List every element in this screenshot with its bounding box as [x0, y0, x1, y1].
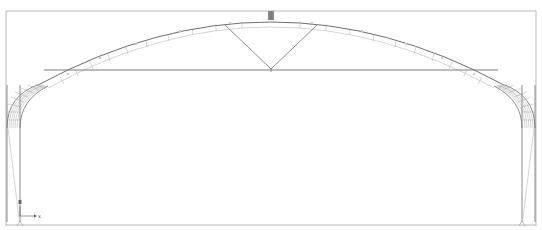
top-chord-arch[interactable]	[40, 21, 502, 88]
left-haunch[interactable]	[7, 84, 48, 128]
right-haunch[interactable]	[494, 84, 535, 128]
axis-triad: x	[19, 200, 42, 219]
model-viewport[interactable]: x	[0, 0, 542, 230]
left-diagonal[interactable]	[225, 25, 271, 69]
structure-drawing: x	[0, 0, 542, 230]
left-column[interactable]	[7, 85, 20, 222]
right-column[interactable]	[522, 85, 535, 222]
right-diagonal[interactable]	[271, 25, 317, 69]
ridge-node[interactable]	[268, 11, 274, 20]
x-axis-label: x	[38, 213, 41, 219]
z-axis-marker	[19, 200, 22, 204]
viewport-frame	[6, 11, 536, 226]
